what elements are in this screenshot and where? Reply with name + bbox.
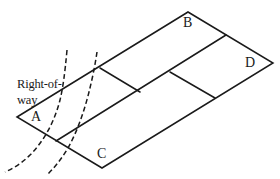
right-of-way-label-line1: Right-of- xyxy=(17,78,62,91)
right-of-way-boundary-right xyxy=(47,52,97,175)
parcel-label-a: A xyxy=(31,110,41,124)
right-of-way-label-line2: way xyxy=(17,94,37,107)
cross-divider-line-1 xyxy=(100,68,140,92)
middle-divider-line xyxy=(56,35,226,141)
cross-divider-line-2 xyxy=(170,72,215,98)
parcel-label-d: D xyxy=(245,56,255,70)
diagram-canvas: Right-of- way A B C D xyxy=(0,0,280,179)
parcel-label-b: B xyxy=(183,16,192,30)
parcel-label-c: C xyxy=(97,147,106,161)
